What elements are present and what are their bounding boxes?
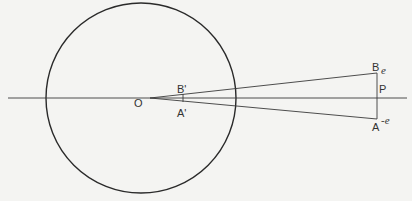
label-O: O — [134, 97, 143, 109]
label-B-prime: B' — [177, 83, 186, 95]
label-e-bottom: -e — [381, 114, 390, 126]
diagram-canvas: O B' A' B e P A -e — [0, 0, 412, 201]
label-P: P — [379, 83, 386, 95]
label-e-top: e — [381, 64, 386, 76]
label-B: B — [372, 61, 379, 73]
diagram-svg: O B' A' B e P A -e — [0, 0, 412, 201]
label-A: A — [372, 121, 380, 133]
label-A-prime: A' — [177, 107, 186, 119]
